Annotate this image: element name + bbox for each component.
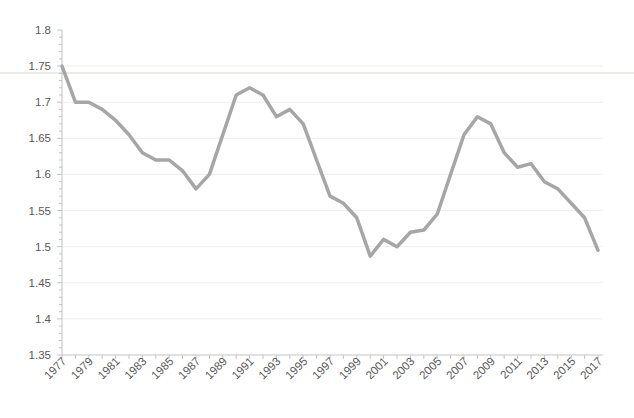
svg-text:1985: 1985	[149, 355, 176, 382]
svg-text:1.8: 1.8	[35, 24, 51, 36]
data-series-line	[62, 66, 598, 256]
svg-text:1.4: 1.4	[35, 313, 52, 325]
svg-text:1.65: 1.65	[29, 132, 51, 144]
svg-text:2007: 2007	[444, 355, 471, 382]
svg-text:1981: 1981	[95, 355, 122, 382]
svg-text:1983: 1983	[122, 355, 149, 382]
line-chart: 1.81.751.71.651.61.551.51.451.41.35 1977…	[0, 0, 634, 418]
gridlines	[62, 66, 603, 319]
svg-text:2001: 2001	[363, 355, 390, 382]
x-axis-tick-labels: 1977197919811983198519871989199119931995…	[42, 355, 605, 382]
y-axis	[57, 30, 62, 355]
svg-text:2005: 2005	[417, 355, 444, 382]
svg-text:1997: 1997	[310, 355, 337, 382]
svg-text:2015: 2015	[551, 355, 578, 382]
svg-text:1995: 1995	[283, 355, 310, 382]
svg-text:1.7: 1.7	[35, 96, 51, 108]
svg-text:1.6: 1.6	[35, 168, 51, 180]
svg-text:2011: 2011	[498, 355, 524, 381]
svg-text:2003: 2003	[390, 355, 417, 382]
svg-text:1.75: 1.75	[29, 60, 51, 72]
chart-area: 1.81.751.71.651.61.551.51.451.41.35 1977…	[0, 0, 634, 418]
svg-text:2017: 2017	[578, 355, 605, 382]
svg-text:1991: 1991	[229, 355, 256, 382]
svg-text:1999: 1999	[337, 355, 364, 382]
svg-text:1.45: 1.45	[29, 277, 51, 289]
svg-text:1.5: 1.5	[35, 241, 51, 253]
svg-text:2009: 2009	[471, 355, 498, 382]
svg-text:1979: 1979	[69, 355, 96, 382]
y-axis-tick-labels: 1.81.751.71.651.61.551.51.451.41.35	[29, 24, 52, 361]
svg-text:1993: 1993	[256, 355, 283, 382]
svg-text:1.55: 1.55	[29, 205, 51, 217]
svg-text:1987: 1987	[176, 355, 203, 382]
svg-text:1.35: 1.35	[29, 349, 51, 361]
svg-text:2013: 2013	[524, 355, 551, 382]
svg-text:1989: 1989	[203, 355, 230, 382]
